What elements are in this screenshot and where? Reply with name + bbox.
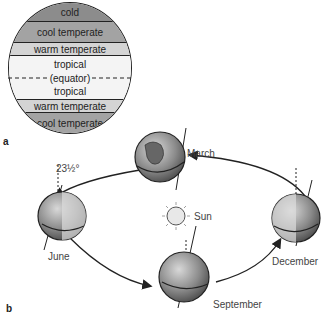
- label-june: June: [48, 251, 70, 262]
- label-december: December: [272, 256, 318, 267]
- earth-september-globe: [159, 226, 209, 308]
- zone-label: (equator): [48, 73, 93, 84]
- label-sun: Sun: [194, 211, 212, 222]
- earth-june-globe: [38, 165, 86, 250]
- label-axial-tilt: 23½°: [56, 163, 79, 174]
- earth-december-globe: [272, 168, 320, 246]
- sun-icon: [162, 202, 190, 230]
- label-september: September: [213, 299, 262, 310]
- label-march: March: [187, 148, 215, 159]
- earth-march-globe: [135, 128, 186, 190]
- panel-label-b: b: [6, 303, 12, 314]
- orbit-diagram: [0, 0, 334, 322]
